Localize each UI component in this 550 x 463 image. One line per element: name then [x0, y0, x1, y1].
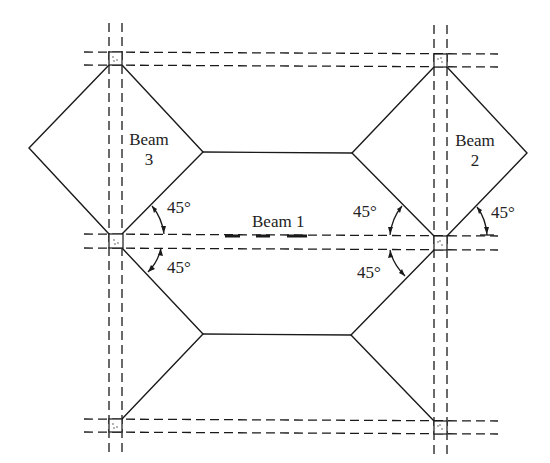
angle-arc-bottom-mid-right	[388, 250, 405, 276]
columns	[109, 52, 447, 434]
column-top-right	[434, 54, 447, 67]
angle-label-far-right: 45°	[491, 203, 515, 223]
angle-arc-top-mid-right	[388, 206, 402, 235]
column-mid-left	[109, 234, 123, 248]
column-mid-right	[434, 236, 447, 250]
beam-3-label-line1: Beam	[127, 130, 171, 150]
vertical-grid-lines	[109, 23, 447, 455]
tributary-area-diagram: Beam 3 Beam 2 Beam 1 45° 45° 45° 45° 45°	[0, 0, 550, 463]
angle-arc-top-left	[152, 206, 166, 234]
angle-arc-bottom-left	[148, 248, 163, 272]
beam-1-label: Beam 1	[252, 212, 304, 232]
column-bottom-right	[434, 421, 447, 434]
angle-label-bottom-left: 45°	[167, 258, 191, 278]
beam-2-label-line2: 2	[453, 151, 497, 171]
angle-label-bottom-mid-right: 45°	[357, 263, 381, 283]
beam-3-label-line2: 3	[127, 150, 171, 170]
column-top-left	[109, 52, 122, 65]
column-bottom-left	[109, 419, 122, 432]
beam-3-label: Beam 3	[127, 130, 171, 170]
beam-2-label-line1: Beam	[453, 131, 497, 151]
angle-label-top-mid-right: 45°	[353, 202, 377, 222]
upper-ridge-line	[203, 152, 352, 153]
beam-2-label: Beam 2	[453, 131, 497, 171]
angle-label-top-left: 45°	[167, 198, 191, 218]
